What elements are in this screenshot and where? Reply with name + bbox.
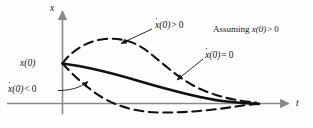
- annotation-xdot-negative: x(0)<0: [8, 85, 37, 95]
- annotation-xdot-zero: x(0)=0: [205, 51, 234, 61]
- annotation-assumption: Assuming x(0)>0: [213, 25, 280, 34]
- xdot-relation-positive: >: [170, 20, 177, 30]
- xdot-symbol-zero: x: [205, 51, 209, 61]
- xdot-symbol-positive: x: [155, 21, 159, 31]
- xdot-symbol-negative: x: [8, 85, 12, 95]
- curve-xdot-positive: [63, 39, 257, 103]
- annotation-xdot-positive: x(0)>0: [155, 21, 184, 31]
- xdot-arg-zero: (0): [209, 50, 220, 60]
- xdot-value-zero: 0: [228, 50, 235, 60]
- axis-label-x: x: [50, 4, 54, 14]
- assumption-arg: (0): [256, 24, 267, 34]
- assumption-value: 0: [273, 24, 280, 34]
- response-curves-figure: x t x(0) x(0)>0 x(0)=0 x(0)<0 Assuming x…: [0, 0, 313, 128]
- origin-value-label: x(0): [20, 59, 35, 69]
- xdot-relation-zero: =: [220, 50, 227, 60]
- xdot-relation-negative: <: [23, 84, 30, 94]
- leader-lines-group: [58, 29, 203, 91]
- xdot-arg-positive: (0): [159, 20, 170, 30]
- leader-line-xdot-positive: [121, 29, 152, 44]
- assumption-prefix: Assuming: [213, 24, 250, 34]
- xdot-value-negative: 0: [31, 84, 38, 94]
- axis-label-t: t: [296, 99, 299, 109]
- xdot-value-positive: 0: [178, 20, 185, 30]
- origin-value-text: x(0): [20, 58, 35, 68]
- xdot-arg-negative: (0): [12, 84, 23, 94]
- leader-line-xdot-zero: [177, 59, 203, 80]
